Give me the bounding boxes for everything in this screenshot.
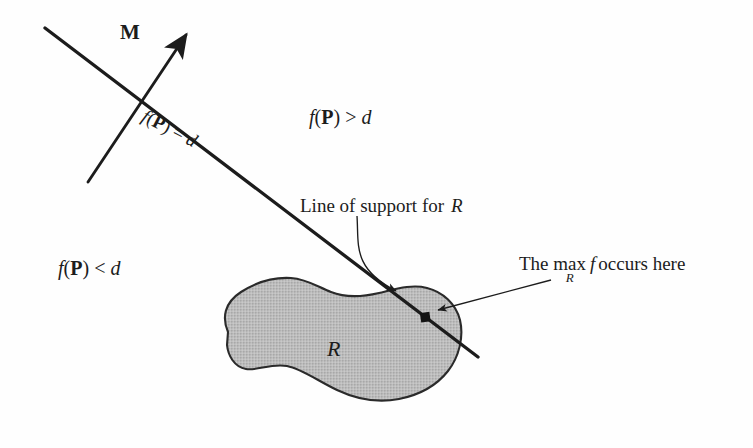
region-r-reference: R [451, 195, 463, 216]
relation-symbol: > [345, 106, 356, 128]
diagram-svg [0, 0, 753, 448]
region-r-label: R [327, 338, 340, 360]
max-operator: maxR [553, 254, 586, 273]
paren-close: ) [333, 106, 340, 128]
paren-close: ) [82, 257, 89, 279]
point-p-symbol: P [321, 106, 333, 128]
d-symbol: d [110, 257, 120, 279]
d-symbol: d [361, 106, 371, 128]
figure-canvas: M f(P) > d f(P) < d f(P) = d Line of sup… [0, 0, 753, 448]
f-greater-than-d-label: f(P) > d [309, 107, 371, 127]
max-subscript-r: R [566, 271, 574, 284]
tangent-point-dot [420, 312, 431, 323]
normal-vector-m-arrow [88, 35, 186, 182]
max-callout-tail: occurs here [598, 253, 685, 274]
max-callout-the: The [519, 253, 549, 274]
region-blob [225, 278, 461, 401]
leader-max-callout [438, 280, 551, 310]
max-callout-label: The maxRfoccurs here [519, 254, 685, 273]
point-p-symbol: P [70, 257, 82, 279]
vector-m-label: M [120, 22, 140, 43]
line-of-support-text: Line of support for [300, 195, 444, 216]
f-symbol: f [590, 253, 595, 274]
f-less-than-d-label: f(P) < d [58, 258, 120, 278]
line-of-support-label: Line of support forR [300, 196, 463, 215]
relation-symbol: < [94, 257, 105, 279]
